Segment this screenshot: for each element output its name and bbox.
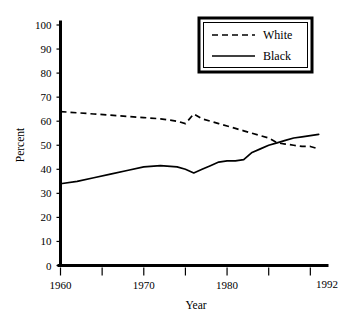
y-tick-label: 0 — [46, 260, 52, 272]
x-tick-group — [61, 268, 311, 276]
x-axis: 196019701980 1992 Year — [50, 266, 339, 312]
x-axis-end-label: 1992 — [316, 278, 338, 290]
series-line-black — [61, 134, 319, 183]
series-group — [61, 112, 319, 184]
y-tick-label: 100 — [35, 19, 52, 31]
y-tick-label: 80 — [41, 67, 53, 79]
legend: White Black — [199, 18, 312, 72]
x-tick-label: 1960 — [50, 279, 73, 291]
line-chart: 0102030405060708090100 Percent 196019701… — [0, 0, 352, 330]
y-tick-label-group: 0102030405060708090100 — [35, 19, 52, 272]
x-tick-label: 1980 — [216, 279, 239, 291]
y-tick-label: 70 — [41, 91, 53, 103]
y-tick-label: 90 — [41, 43, 53, 55]
x-tick-label-group: 196019701980 — [50, 279, 239, 291]
y-tick-label: 20 — [41, 211, 53, 223]
x-axis-title: Year — [185, 299, 206, 311]
y-axis: 0102030405060708090100 Percent — [14, 19, 61, 272]
legend-label-white: White — [263, 28, 292, 42]
series-line-white — [61, 112, 319, 149]
y-axis-title: Percent — [14, 127, 26, 162]
legend-label-black: Black — [263, 49, 291, 63]
y-tick-label: 30 — [41, 187, 53, 199]
chart-container: 0102030405060708090100 Percent 196019701… — [0, 0, 352, 330]
y-tick-label: 10 — [41, 235, 53, 247]
y-tick-label: 60 — [41, 115, 53, 127]
x-tick-label: 1970 — [133, 279, 156, 291]
y-tick-label: 50 — [41, 139, 53, 151]
legend-border — [199, 18, 312, 72]
y-tick-label: 40 — [41, 163, 53, 175]
